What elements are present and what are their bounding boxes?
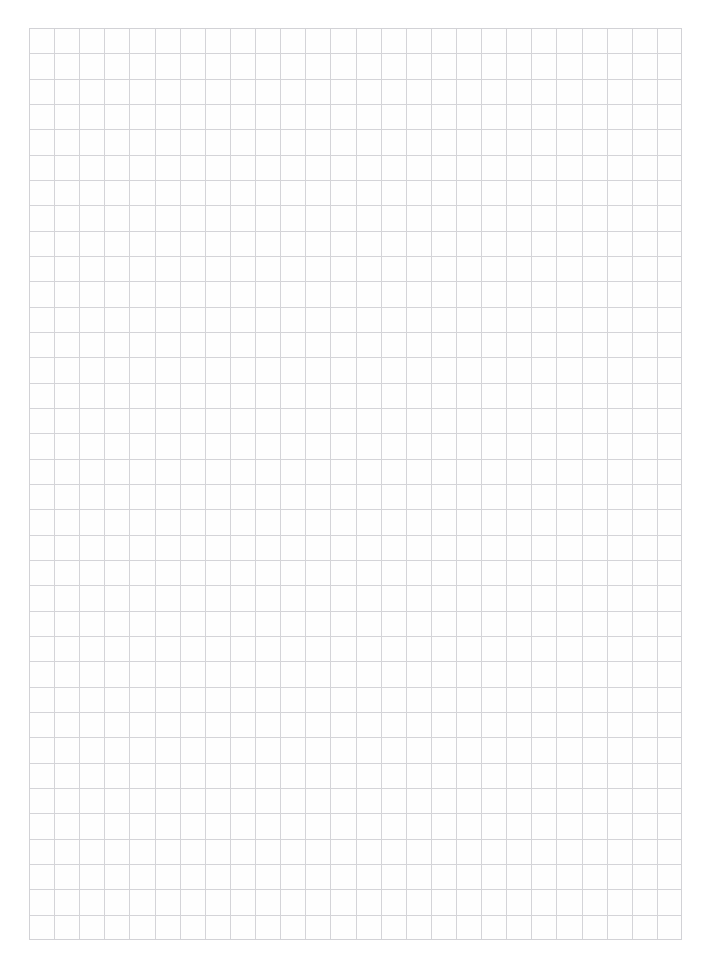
graph-paper-sheet[interactable] (29, 28, 682, 940)
margin-right (682, 0, 705, 961)
margin-top (0, 0, 705, 28)
page-canvas (0, 0, 705, 961)
grid-ruling (29, 28, 682, 940)
margin-bottom (0, 940, 705, 961)
margin-left (0, 0, 29, 961)
